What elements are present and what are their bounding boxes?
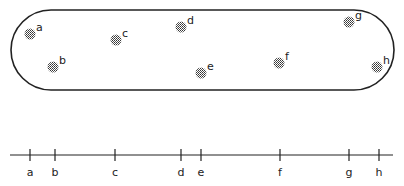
tick-label-f: f bbox=[278, 166, 283, 179]
axis-ticks: abcdefgh bbox=[27, 149, 383, 179]
tick-label-g: g bbox=[346, 166, 353, 179]
tick-label-c: c bbox=[112, 166, 118, 179]
projection-diagram: abcdefgh abcdefgh bbox=[0, 0, 404, 186]
tick-label-h: h bbox=[376, 166, 383, 179]
tick-label-b: b bbox=[52, 166, 59, 179]
point-label-d: d bbox=[187, 14, 194, 27]
point-dot-c bbox=[111, 35, 122, 46]
point-label-b: b bbox=[59, 54, 66, 67]
tick-label-e: e bbox=[198, 166, 205, 179]
point-label-c: c bbox=[122, 27, 128, 40]
point-dot-h bbox=[372, 62, 383, 73]
point-dot-f bbox=[274, 58, 285, 69]
point-label-g: g bbox=[355, 9, 362, 22]
point-dot-e bbox=[196, 68, 207, 79]
point-label-e: e bbox=[207, 60, 214, 73]
point-dot-d bbox=[176, 22, 187, 33]
tick-label-d: d bbox=[178, 166, 185, 179]
point-label-a: a bbox=[36, 21, 43, 34]
point-dot-a bbox=[25, 29, 36, 40]
point-label-h: h bbox=[383, 54, 390, 67]
tick-label-a: a bbox=[27, 166, 34, 179]
points-group: abcdefgh bbox=[25, 9, 391, 79]
point-dot-b bbox=[48, 62, 59, 73]
point-dot-g bbox=[344, 17, 355, 28]
point-label-f: f bbox=[285, 50, 290, 63]
